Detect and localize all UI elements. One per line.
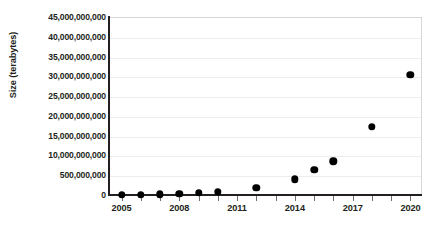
- x-axis-tick: [314, 196, 315, 201]
- x-axis-tick: [391, 196, 392, 201]
- chart-figure: Size (terabytes) 45,000,000,00040,000,00…: [0, 0, 434, 228]
- x-axis-tick-label: 2020: [400, 203, 420, 213]
- x-axis-tick-label: 2008: [169, 203, 189, 213]
- x-axis-tick: [276, 196, 277, 201]
- x-axis-tick: [333, 196, 334, 201]
- x-axis-tick-label: 2011: [227, 203, 247, 213]
- x-axis-tick-label: 2014: [285, 203, 305, 213]
- x-axis-tick: [295, 196, 296, 201]
- x-axis-tick: [199, 196, 200, 201]
- x-axis-tick: [353, 196, 354, 201]
- x-axis-tick: [237, 196, 238, 201]
- x-axis-tick: [410, 196, 411, 201]
- x-axis-tick: [218, 196, 219, 201]
- x-axis-tick: [372, 196, 373, 201]
- x-axis-tick: [256, 196, 257, 201]
- x-axis-tick-label: 2005: [112, 203, 132, 213]
- x-axis-tick-label: 2017: [343, 203, 363, 213]
